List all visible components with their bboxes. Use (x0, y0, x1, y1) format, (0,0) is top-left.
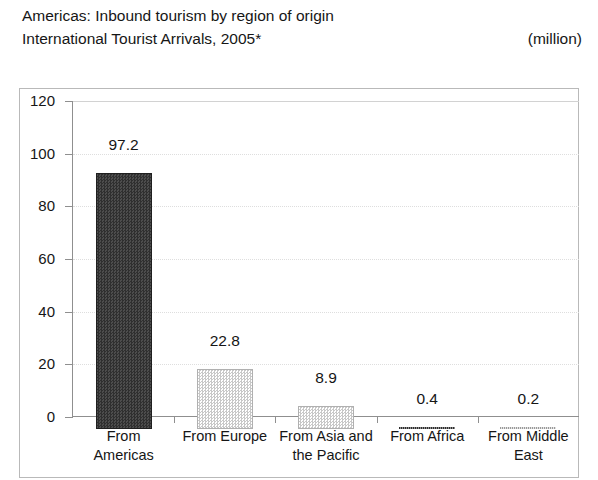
unit-label: (million) (528, 27, 582, 50)
chart-header: Americas: Inbound tourism by region of o… (22, 4, 582, 50)
x-axis-tick (275, 417, 276, 423)
bar-fill (298, 406, 354, 429)
bar (298, 406, 354, 429)
y-axis-tick-label: 120 (0, 93, 55, 108)
chart-subtitle: International Tourist Arrivals, 2005* (22, 27, 261, 50)
x-axis-category-label: From MiddleEast (478, 427, 579, 465)
x-axis-tick (478, 417, 479, 423)
subtitle-row: International Tourist Arrivals, 2005* (m… (22, 27, 582, 50)
y-axis-tick-label: 80 (0, 198, 55, 213)
bar (197, 369, 253, 429)
bar-value-label: 0.2 (478, 391, 579, 407)
x-axis-category-label-line: From Middle (478, 427, 579, 446)
x-axis-tick (174, 417, 175, 423)
bar (96, 173, 152, 429)
x-axis-category-label-line: From (73, 427, 174, 446)
bar-value-label: 8.9 (275, 370, 376, 386)
bar-value-label: 22.8 (174, 333, 275, 349)
x-axis-category-label: FromAmericas (73, 427, 174, 465)
x-axis-category-label-line: From Europe (174, 427, 275, 446)
bar-fill (197, 369, 253, 429)
x-axis-category-label-line: the Pacific (275, 446, 376, 465)
bar-fill (96, 173, 152, 429)
bar-chart: 020406080100120 97.222.88.90.40.2 FromAm… (19, 88, 579, 478)
plot-area: 97.222.88.90.40.2 (73, 101, 579, 429)
x-axis-category-label-line: From Asia and (275, 427, 376, 446)
x-axis-category-label-line: From Africa (377, 427, 478, 446)
y-axis-tick-label: 60 (0, 251, 55, 266)
x-axis-tick (377, 417, 378, 423)
x-axis-category-label-line: Americas (73, 446, 174, 465)
x-axis-category-label: From Africa (377, 427, 478, 446)
bar-value-label: 97.2 (73, 137, 174, 153)
y-axis-tick-label: 100 (0, 146, 55, 161)
y-axis-tick-label: 40 (0, 304, 55, 319)
y-axis-tick-label: 20 (0, 356, 55, 371)
bar-value-label: 0.4 (377, 391, 478, 407)
x-axis-category-label-line: East (478, 446, 579, 465)
y-axis-tick-label: 0 (0, 409, 55, 424)
y-axis-tick (65, 417, 73, 418)
page-title: Americas: Inbound tourism by region of o… (22, 4, 582, 27)
x-axis-category-label: From Europe (174, 427, 275, 446)
x-axis-category-label: From Asia andthe Pacific (275, 427, 376, 465)
